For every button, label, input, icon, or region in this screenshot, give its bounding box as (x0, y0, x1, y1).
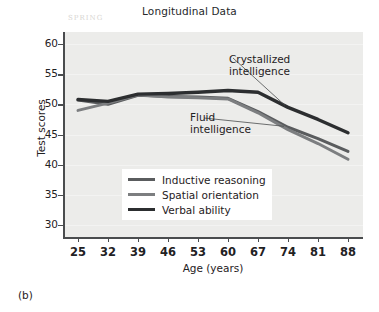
figure-panel: Longitudinal Data SPRING 60555045403530 … (0, 0, 379, 312)
annotation-crystallized-intelligence: Crystallized intelligence (229, 53, 290, 77)
x-tick-label: 53 (181, 245, 215, 259)
y-tick-label: 30 (18, 218, 58, 230)
chart-legend: Inductive reasoning Spatial orientation … (122, 169, 272, 220)
y-tick-label: 35 (18, 188, 58, 200)
legend-item-verbal-ability: Verbal ability (126, 202, 268, 217)
figure-caption: (b) (18, 289, 33, 301)
x-tick-label: 88 (331, 245, 365, 259)
annotation-line-2: intelligence (229, 65, 290, 77)
x-tick-label: 46 (151, 245, 185, 259)
x-axis-line (63, 237, 363, 239)
legend-swatch-icon (128, 178, 155, 181)
x-tick-label: 60 (211, 245, 245, 259)
x-tick-label: 74 (271, 245, 305, 259)
legend-label: Inductive reasoning (162, 174, 266, 186)
legend-item-spatial-orientation: Spatial orientation (126, 187, 268, 202)
faint-watermark: SPRING (68, 14, 103, 22)
x-axis-label: Age (years) (63, 262, 363, 274)
legend-swatch-icon (128, 208, 155, 211)
y-tick-label: 60 (18, 37, 58, 49)
annotation-line-1: Crystallized (229, 53, 290, 65)
y-axis-label: Test scores (35, 68, 47, 188)
x-tick-label: 39 (121, 245, 155, 259)
legend-label: Verbal ability (162, 204, 231, 216)
annotation-line-2: intelligence (190, 123, 251, 135)
legend-item-inductive-reasoning: Inductive reasoning (126, 172, 268, 187)
legend-swatch-icon (128, 193, 155, 196)
annotation-fluid-intelligence: Fluid intelligence (190, 111, 251, 135)
x-tick-label: 32 (91, 245, 125, 259)
annotation-line-1: Fluid (190, 111, 251, 123)
x-tick-label: 81 (301, 245, 335, 259)
chart-title: Longitudinal Data (0, 5, 379, 17)
x-tick-label: 67 (241, 245, 275, 259)
legend-label: Spatial orientation (162, 189, 259, 201)
x-tick-label: 25 (61, 245, 95, 259)
